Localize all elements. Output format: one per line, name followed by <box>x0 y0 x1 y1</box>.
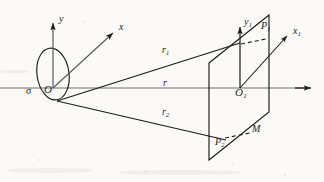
x-axis-label: x <box>119 22 123 32</box>
ray-r1-label: r1 <box>162 45 169 56</box>
ray-r2-line <box>57 101 226 140</box>
origin1-label-base: O <box>235 86 243 98</box>
ray-r2-label-sub: 2 <box>166 111 169 118</box>
y-axis-label: y <box>59 14 63 24</box>
aperture-sigma-label: σ <box>26 86 31 96</box>
x1-axis-line <box>240 36 287 88</box>
ray-r1-label-sub: 1 <box>166 49 169 56</box>
ray-r1-line <box>57 43 240 101</box>
p1-dashed-connector <box>241 39 266 44</box>
y1-axis-label-sub: 1 <box>248 21 251 28</box>
figure-canvas: y x O σ r1 r r2 y1 x1 O1 P1 P2 M <box>0 0 324 182</box>
point-p1-label: P1 <box>261 21 271 32</box>
point-p1-label-sub: 1 <box>267 25 270 32</box>
point-p2-label: P2 <box>215 137 225 148</box>
x1-axis-label-sub: 1 <box>297 30 300 37</box>
x-axis-line <box>53 33 113 88</box>
ray-r2-label: r2 <box>162 107 169 118</box>
plane-m-label: M <box>252 124 260 134</box>
point-p2-label-sub: 2 <box>221 141 224 148</box>
origin-label: O <box>44 84 52 95</box>
y1-axis-label: y1 <box>244 17 252 28</box>
x1-axis-label: x1 <box>293 26 301 37</box>
origin1-label-sub: 1 <box>243 92 247 100</box>
ray-r-label: r <box>163 78 167 88</box>
origin1-label: O1 <box>235 87 247 100</box>
